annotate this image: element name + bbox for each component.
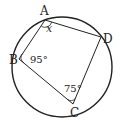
cyclic-quadrilateral-diagram: A D C B x 95° 75°	[0, 0, 122, 124]
vertex-label-c: C	[70, 106, 79, 120]
vertex-label-a: A	[39, 4, 49, 18]
angle-label-b: 95°	[30, 54, 48, 65]
circumscribed-circle	[12, 17, 112, 117]
vertex-label-b: B	[9, 53, 18, 67]
angle-label-c: 75°	[64, 83, 82, 94]
angle-label-a: x	[46, 22, 53, 35]
vertex-label-d: D	[103, 32, 113, 46]
